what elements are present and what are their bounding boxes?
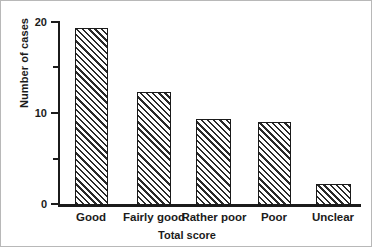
y-tick-0: 0: [51, 203, 58, 205]
y-axis-spine: [58, 21, 60, 205]
y-minor-tick-15: [53, 66, 58, 68]
x-category-label-unclear: Unclear: [312, 211, 354, 223]
x-axis-title: Total score: [1, 229, 372, 241]
x-category-label-poor: Poor: [261, 211, 287, 223]
y-minor-tick-5: [53, 158, 58, 160]
bar-chart-figure: Number of cases 20 10 0 Good Fairly good…: [0, 0, 372, 247]
x-category-label-fairly-good: Fairly good: [123, 211, 185, 223]
y-tick-label-0: 0: [41, 198, 47, 210]
y-axis-title: Number of cases: [18, 0, 30, 133]
bar-good: [75, 28, 108, 205]
x-category-label-good: Good: [76, 211, 106, 223]
y-tick-label-20: 20: [35, 16, 47, 28]
bar-fairly-good: [137, 92, 171, 205]
bar-poor: [258, 122, 291, 205]
plot-area: 20 10 0: [58, 21, 361, 205]
bar-rather-poor: [196, 119, 231, 205]
y-tick-20: 20: [51, 21, 58, 23]
bar-unclear: [316, 184, 351, 205]
y-tick-label-10: 10: [35, 107, 47, 119]
x-category-label-rather-poor: Rather poor: [181, 211, 246, 223]
y-tick-10: 10: [51, 112, 58, 114]
